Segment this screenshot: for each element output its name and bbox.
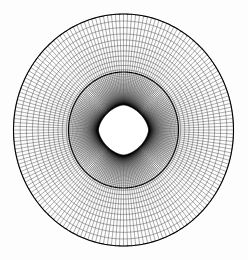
mesh-figure	[0, 0, 248, 260]
mesh-canvas	[0, 0, 248, 260]
